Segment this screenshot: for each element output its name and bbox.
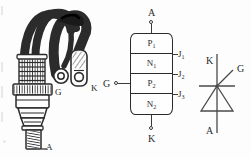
semiconductor-stack: P1 N1 P2 N2 [130, 33, 173, 115]
thyristor-photo-drawing [0, 0, 112, 159]
photo-anode-label: A [46, 143, 53, 152]
block-cathode-terminal-dot [149, 126, 153, 130]
layer-n2-label: N2 [147, 99, 157, 110]
block-gate-label: G [103, 79, 110, 89]
thyristor-photograph: G K A [0, 0, 112, 159]
junction-j3-label: J3 [178, 90, 185, 100]
block-cathode-lead [151, 115, 152, 126]
layer-p1: P1 [131, 34, 172, 54]
block-gate-lead [118, 83, 130, 84]
junction-j2-label: J2 [178, 70, 185, 80]
block-anode-label: A [148, 8, 155, 18]
photo-cathode-label: K [91, 84, 98, 93]
photo-gate-label: G [55, 88, 62, 97]
thyristor-figure: G K A A P1 N1 P2 N2 J1 J2 [0, 0, 251, 159]
layer-n2: N2 [131, 94, 172, 114]
layer-structure-diagram: A P1 N1 P2 N2 J1 J2 J3 G [112, 0, 190, 159]
block-cathode-label: K [148, 134, 155, 144]
cathode-lug-terminal [71, 50, 87, 86]
layer-p1-label: P1 [147, 38, 155, 49]
symbol-anode-label: A [206, 126, 213, 136]
thyristor-symbol-icon [190, 0, 251, 159]
layer-n1-label: N1 [147, 58, 157, 69]
layer-p2: P2 [131, 74, 172, 94]
layer-n1: N1 [131, 54, 172, 74]
circuit-symbol-diagram: K G A [190, 0, 251, 159]
symbol-cathode-label: K [206, 56, 213, 66]
layer-p2-label: P2 [147, 78, 155, 89]
symbol-gate-label: G [237, 64, 244, 74]
junction-j1-label: J1 [178, 50, 185, 60]
